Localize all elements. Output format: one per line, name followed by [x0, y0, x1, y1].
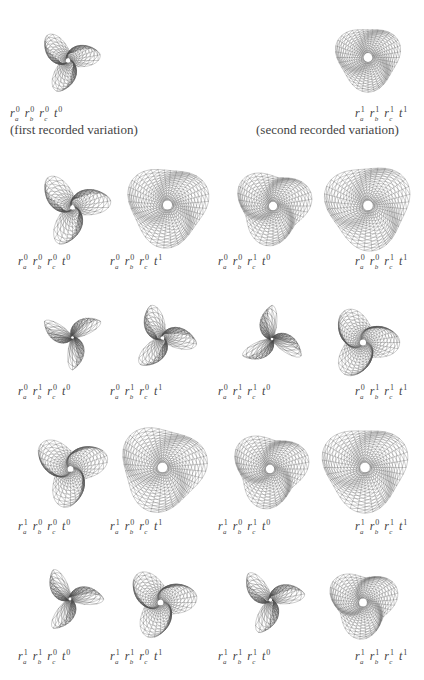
superscript-rc: 1 [390, 383, 394, 392]
superscript-t: 1 [158, 648, 162, 657]
superscript-rb: 0 [375, 253, 379, 262]
subscript-ra: a [115, 394, 119, 401]
term-ra: r1a [18, 520, 28, 532]
mesh-graphic [18, 18, 118, 103]
subscript-rc: c [252, 394, 255, 401]
superscript-rc: 1 [390, 518, 394, 527]
mesh-graphic [232, 300, 312, 378]
term-t: t0 [262, 650, 270, 662]
subscript-rb: b [38, 529, 42, 536]
term-t: t0 [54, 107, 62, 119]
superscript-ra: 0 [24, 383, 28, 392]
superscript-t: 0 [58, 105, 62, 114]
superscript-rc: 0 [45, 105, 49, 114]
superscript-t: 0 [266, 518, 270, 527]
term-ra: r1a [218, 520, 228, 532]
mesh-graphic [315, 420, 415, 515]
superscript-rc: 0 [145, 253, 149, 262]
subscript-rb: b [238, 529, 242, 536]
term-ra: r0a [18, 255, 28, 267]
superscript-rc: 0 [53, 253, 57, 262]
mesh-graphic [225, 425, 315, 513]
superscript-t: 0 [66, 648, 70, 657]
superscript-t: 1 [158, 518, 162, 527]
superscript-rc: 0 [53, 383, 57, 392]
parameter-label: r0ar0br0ct0 [18, 255, 75, 267]
term-rc: r0c [47, 385, 57, 397]
term-rb: r1b [370, 650, 380, 662]
subscript-rc: c [252, 529, 255, 536]
subscript-rc: c [52, 529, 55, 536]
parameter-label: r1ar1br1ct1 [355, 107, 412, 119]
parameter-label: r0ar0br1ct1 [355, 255, 412, 267]
term-rb: r1b [33, 650, 43, 662]
mesh-figure-r1c [228, 162, 318, 250]
subscript-rc: c [252, 659, 255, 666]
term-t: t1 [399, 650, 407, 662]
term-rb: r0b [370, 255, 380, 267]
mesh-figure-h2 [318, 15, 418, 100]
term-ra: r0a [110, 255, 120, 267]
superscript-ra: 0 [361, 383, 365, 392]
term-t: t0 [62, 385, 70, 397]
mesh-graphic [228, 162, 318, 250]
term-rb: r0b [33, 255, 43, 267]
superscript-ra: 1 [224, 518, 228, 527]
subscript-rb: b [238, 394, 242, 401]
subscript-rb: b [38, 264, 42, 271]
superscript-t: 1 [403, 518, 407, 527]
superscript-t: 0 [266, 383, 270, 392]
superscript-rc: 0 [145, 648, 149, 657]
mesh-figure-r2a [30, 300, 115, 375]
parameter-label: r1ar0br1ct0 [218, 520, 275, 532]
subscript-ra: a [223, 659, 227, 666]
parameter-label: r0ar0br1ct0 [218, 255, 275, 267]
subscript-rc: c [52, 264, 55, 271]
mesh-figure-r3c [225, 425, 315, 513]
parameter-label: r1ar0br1ct1 [355, 520, 412, 532]
subscript-rb: b [38, 659, 42, 666]
superscript-ra: 0 [361, 253, 365, 262]
mesh-figure-r1a [30, 165, 115, 250]
term-rb: r0b [33, 520, 43, 532]
term-rc: r0c [39, 107, 49, 119]
parameter-label: r0ar1br0ct1 [110, 385, 167, 397]
term-rc: r0c [47, 650, 57, 662]
superscript-ra: 0 [16, 105, 20, 114]
term-t: t1 [399, 255, 407, 267]
subscript-ra: a [23, 264, 27, 271]
term-rb: r1b [233, 650, 243, 662]
subscript-rb: b [375, 529, 379, 536]
mesh-graphic [30, 300, 115, 375]
subscript-rc: c [52, 394, 55, 401]
superscript-t: 0 [266, 253, 270, 262]
term-ra: r1a [110, 520, 120, 532]
mesh-figure-r2d [318, 300, 408, 385]
superscript-t: 1 [403, 383, 407, 392]
superscript-t: 1 [158, 383, 162, 392]
subscript-rc: c [144, 659, 147, 666]
superscript-rb: 0 [38, 518, 42, 527]
superscript-rc: 1 [390, 105, 394, 114]
superscript-t: 1 [403, 648, 407, 657]
superscript-rc: 0 [53, 648, 57, 657]
superscript-rb: 0 [130, 253, 134, 262]
subscript-rb: b [130, 264, 134, 271]
mesh-graphic [318, 15, 418, 100]
parameter-label: r1ar0br0ct0 [18, 520, 75, 532]
mesh-graphic [30, 165, 115, 250]
mesh-figure-r2b [120, 298, 205, 378]
term-t: t1 [154, 385, 162, 397]
term-rc: r1c [384, 650, 394, 662]
superscript-rb: 0 [130, 518, 134, 527]
superscript-ra: 1 [361, 518, 365, 527]
superscript-ra: 1 [361, 648, 365, 657]
subscript-rb: b [130, 394, 134, 401]
term-rc: r1c [384, 107, 394, 119]
mesh-figure-r4b [118, 560, 203, 645]
subscript-ra: a [360, 394, 364, 401]
parameter-label: r1ar1br0ct0 [18, 650, 75, 662]
subscript-rc: c [389, 659, 392, 666]
term-t: t1 [399, 107, 407, 119]
superscript-ra: 1 [116, 518, 120, 527]
